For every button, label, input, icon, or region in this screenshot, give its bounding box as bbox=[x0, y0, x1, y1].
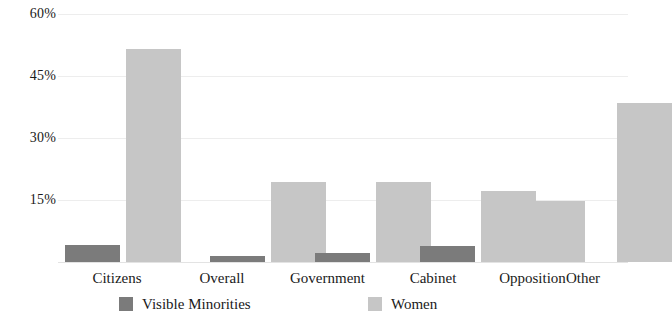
legend-item-visible-minorities[interactable]: Visible Minorities bbox=[119, 294, 251, 314]
bar-group-government bbox=[308, 14, 403, 262]
bar-cabinet-visible-minorities[interactable] bbox=[420, 246, 475, 262]
bar-citizens-visible-minorities[interactable] bbox=[65, 245, 120, 262]
y-axis: 60% 45% 30% 15% bbox=[0, 0, 56, 322]
y-tick-label-30: 30% bbox=[4, 131, 56, 145]
bar-group-other bbox=[556, 14, 651, 262]
x-tick-label-overall: Overall bbox=[167, 268, 277, 288]
bar-citizens-women[interactable] bbox=[126, 49, 181, 262]
y-tick-label-45: 45% bbox=[4, 69, 56, 83]
legend-item-women[interactable]: Women bbox=[368, 294, 437, 314]
x-tick-label-citizens: Citizens bbox=[62, 268, 172, 288]
bar-group-citizens bbox=[58, 14, 153, 262]
bar-group-cabinet bbox=[413, 14, 508, 262]
bar-other-women[interactable] bbox=[617, 103, 672, 262]
legend-label-visible-minorities: Visible Minorities bbox=[142, 295, 251, 313]
x-tick-label-other: Other bbox=[528, 268, 638, 288]
bar-group-overall bbox=[203, 14, 298, 262]
chart-legend: Visible Minorities Women bbox=[0, 294, 634, 318]
bar-government-visible-minorities[interactable] bbox=[315, 253, 370, 262]
y-tick-label-15: 15% bbox=[4, 193, 56, 207]
y-tick-label-60: 60% bbox=[4, 7, 56, 21]
x-axis-baseline bbox=[58, 262, 628, 263]
legend-swatch-icon-visible-minorities bbox=[119, 297, 133, 311]
legend-label-women: Women bbox=[391, 295, 437, 313]
x-tick-label-government: Government bbox=[265, 268, 390, 288]
plot-area bbox=[58, 14, 628, 262]
legend-swatch-icon-women bbox=[368, 297, 382, 311]
